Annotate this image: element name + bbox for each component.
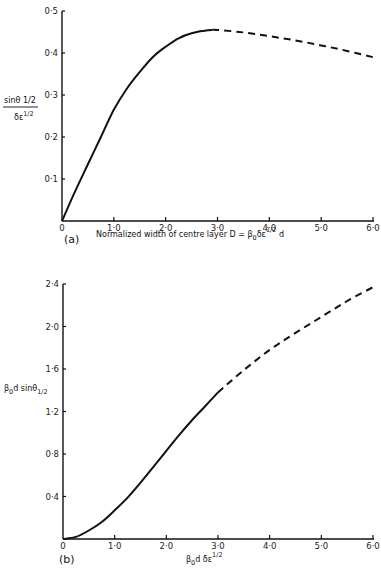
y-tick-label: 1·6 <box>45 364 59 374</box>
y-tick-label: 0·5 <box>44 6 58 16</box>
y-tick-label: 0·1 <box>44 174 58 184</box>
y-tick-label: 0·4 <box>45 492 59 502</box>
chart-b: 01·02·03·04·05·06·0 0·40·81·21·62·02·4 (… <box>4 279 380 567</box>
x-tick-label: 3·0 <box>211 541 225 551</box>
x-tick-label: 6·0 <box>366 223 380 233</box>
x-tick-label: 5·0 <box>314 223 328 233</box>
chart-a-y-label: sinθ 1/2 δε1/2 <box>3 96 38 122</box>
series-line-solid <box>63 392 218 539</box>
x-tick-label: 2·0 <box>160 541 174 551</box>
chart-a-y-label-denominator: δε1/2 <box>14 110 34 122</box>
series-line-solid <box>62 30 212 221</box>
chart-b-y-label: β0d sinθ1/2 <box>4 384 48 396</box>
series-line-dashed <box>218 287 373 392</box>
y-tick-label: 2·4 <box>45 279 59 289</box>
y-tick-label: 1·2 <box>45 407 59 417</box>
chart-b-panel-label: (b) <box>59 553 75 566</box>
x-tick-label: 1·0 <box>108 541 122 551</box>
x-tick-label: 5·0 <box>315 541 329 551</box>
x-tick-label: 0 <box>59 223 64 233</box>
x-tick-label: 6·0 <box>366 541 380 551</box>
x-tick-label: 4·0 <box>263 541 277 551</box>
figure: 01·02·03·04·05·06·0 0·10·20·30·40·5 (a) … <box>0 0 381 570</box>
x-tick-label: 0 <box>60 541 65 551</box>
y-tick-label: 0·3 <box>44 90 58 100</box>
y-tick-label: 2·0 <box>45 322 59 332</box>
series-line-dashed <box>212 30 373 57</box>
y-tick-label: 0·8 <box>45 449 59 459</box>
chart-a-x-label: Normalized width of centre layer D = β0δ… <box>96 226 284 242</box>
chart-a-panel-label: (a) <box>64 233 79 246</box>
y-tick-label: 0·4 <box>44 48 58 58</box>
chart-a-y-label-numerator: sinθ 1/2 <box>4 96 36 105</box>
chart-b-x-label: β0d δε1/2 <box>186 551 223 567</box>
chart-a: 01·02·03·04·05·06·0 0·10·20·30·40·5 (a) … <box>3 6 380 246</box>
y-tick-label: 0·2 <box>44 132 58 142</box>
